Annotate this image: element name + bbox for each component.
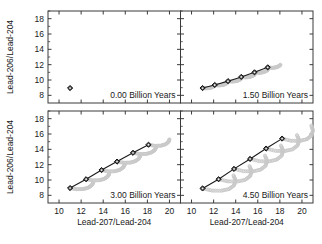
cloud-arc [69,181,95,191]
y-tick-label: 18 [35,14,45,24]
cloud-arc [147,138,171,148]
y-tick-label: 10 [35,175,45,185]
panel-age-label: 3.00 Billion Years [110,190,175,200]
panel-age-label: 0.00 Billion Years [110,90,175,100]
marker-center [218,178,220,180]
y-tick-label: 12 [35,60,45,70]
marker-center [249,158,251,160]
y-tick-label: 8 [39,90,44,100]
x-tick-label: 16 [253,206,263,216]
x-tick-label: 12 [209,206,219,216]
marker-center [132,152,134,154]
y-axis-title: Lead-206/Lead-204 [5,120,15,194]
y-tick-label: 14 [35,144,45,154]
marker-center [265,148,267,150]
x-tick-label: 14 [98,206,108,216]
panel-4: 4.50 Billion Years [181,111,315,203]
panel-3: 3.00 Billion Years [48,111,181,203]
y-tick-label: 8 [39,190,44,200]
y-axis-title: Lead-206/Lead-204 [5,20,15,94]
cloud-arc [116,155,142,165]
marker-center [69,187,71,189]
panel-age-label: 1.50 Billion Years [243,90,308,100]
y-tick-label: 10 [35,75,45,85]
x-tick-label: 20 [297,206,307,216]
x-tick-label: 16 [121,206,131,216]
marker-center [267,66,269,68]
x-tick-label: 10 [187,206,197,216]
y-tick-label: 16 [35,129,45,139]
x-tick-label: 18 [143,206,153,216]
marker-center [69,87,71,89]
marker-center [202,87,204,89]
marker-center [254,71,256,73]
marker-center [233,168,235,170]
y-tick-label: 12 [35,160,45,170]
marker-center [240,76,242,78]
marker-center [227,80,229,82]
panel-1: 0.00 Billion Years [48,11,181,103]
y-tick-label: 16 [35,29,45,39]
x-tick-label: 20 [165,206,175,216]
panel-age-label: 4.50 Billion Years [243,190,308,200]
marker-center [116,161,118,163]
marker-center [281,138,283,140]
isochron-line [70,145,148,188]
x-axis-title: Lead-207/Lead-204 [210,217,284,227]
x-tick-label: 18 [275,206,285,216]
figure-panel-grid: 0.00 Billion Years1.50 Billion Years3.00… [0,0,322,244]
marker-center [101,169,103,171]
x-axis-title: Lead-207/Lead-204 [77,217,151,227]
marker-center [148,144,150,146]
y-tick-label: 18 [35,114,45,124]
marker-center [214,84,216,86]
cloud-arc [85,172,111,182]
x-tick-label: 10 [54,206,64,216]
chart-canvas: 0.00 Billion Years1.50 Billion Years3.00… [0,0,322,244]
marker-center [85,178,87,180]
panel-2: 1.50 Billion Years [181,11,314,103]
x-tick-label: 14 [231,206,241,216]
x-tick-label: 12 [76,206,86,216]
y-tick-label: 14 [35,44,45,54]
marker-center [202,188,204,190]
